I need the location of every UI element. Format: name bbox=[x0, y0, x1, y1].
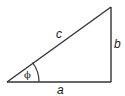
label-b: b bbox=[114, 37, 121, 51]
label-phi: ϕ bbox=[24, 69, 31, 80]
angle-arc bbox=[33, 63, 40, 83]
right-triangle-diagram: c b a ϕ bbox=[0, 0, 125, 96]
side-c-hypotenuse bbox=[7, 7, 111, 82]
label-a: a bbox=[57, 83, 64, 96]
label-c: c bbox=[56, 27, 62, 41]
